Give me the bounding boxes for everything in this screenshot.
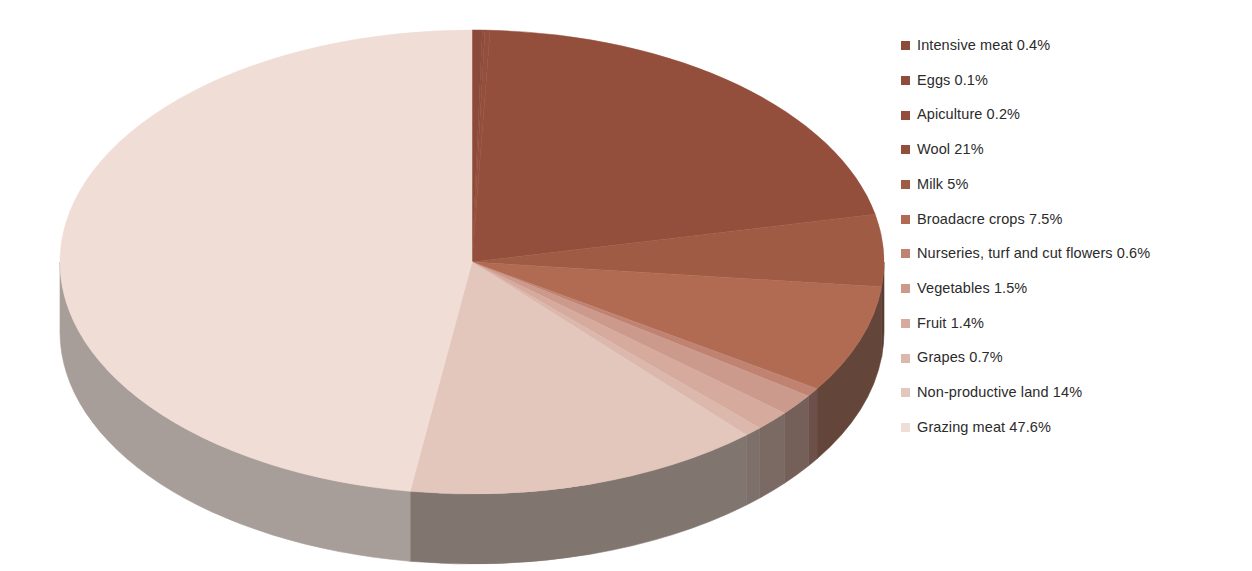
- legend-swatch-icon: [901, 41, 910, 50]
- legend-item[interactable]: Apiculture 0.2%: [901, 97, 1252, 132]
- legend-item[interactable]: Fruit 1.4%: [901, 306, 1252, 341]
- legend-item[interactable]: Vegetables 1.5%: [901, 271, 1252, 306]
- legend-swatch-icon: [901, 180, 910, 189]
- pie-slice-side-6: [808, 389, 817, 466]
- legend-item-label: Grazing meat 47.6%: [917, 420, 1051, 435]
- legend-item[interactable]: Wool 21%: [901, 132, 1252, 167]
- legend-swatch-icon: [901, 145, 910, 154]
- pie-top-face-group: [60, 30, 884, 494]
- legend-item-label: Vegetables 1.5%: [917, 281, 1027, 296]
- legend-swatch-icon: [901, 215, 910, 224]
- legend-item-label: Wool 21%: [917, 142, 984, 157]
- legend-item[interactable]: Intensive meat 0.4%: [901, 28, 1252, 63]
- legend-swatch-icon: [901, 284, 910, 293]
- legend-item[interactable]: Grapes 0.7%: [901, 340, 1252, 375]
- legend-item-label: Fruit 1.4%: [917, 316, 984, 331]
- pie-chart-plot-area: [0, 0, 900, 571]
- legend-item[interactable]: Eggs 0.1%: [901, 63, 1252, 98]
- legend-item-label: Broadacre crops 7.5%: [917, 212, 1062, 227]
- legend-swatch-icon: [901, 423, 910, 432]
- legend-item-label: Non-productive land 14%: [917, 385, 1082, 400]
- legend-item-label: Nurseries, turf and cut flowers 0.6%: [917, 246, 1150, 261]
- legend-item[interactable]: Milk 5%: [901, 167, 1252, 202]
- pie-chart-svg: [0, 0, 900, 571]
- legend-swatch-icon: [901, 249, 910, 258]
- pie-chart-figure: Intensive meat 0.4%Eggs 0.1%Apiculture 0…: [0, 0, 1252, 571]
- legend-item-label: Milk 5%: [917, 177, 968, 192]
- chart-legend: Intensive meat 0.4%Eggs 0.1%Apiculture 0…: [901, 28, 1252, 444]
- legend-item[interactable]: Nurseries, turf and cut flowers 0.6%: [901, 236, 1252, 271]
- legend-item[interactable]: Non-productive land 14%: [901, 375, 1252, 410]
- legend-swatch-icon: [901, 319, 910, 328]
- legend-item[interactable]: Broadacre crops 7.5%: [901, 201, 1252, 236]
- legend-item[interactable]: Grazing meat 47.6%: [901, 410, 1252, 445]
- legend-swatch-icon: [901, 354, 910, 363]
- legend-item-label: Intensive meat 0.4%: [917, 38, 1050, 53]
- legend-swatch-icon: [901, 76, 910, 85]
- legend-item-label: Eggs 0.1%: [917, 73, 988, 88]
- legend-swatch-icon: [901, 111, 910, 120]
- legend-item-label: Grapes 0.7%: [917, 350, 1003, 365]
- pie-slice-side-9: [746, 428, 759, 505]
- legend-item-label: Apiculture 0.2%: [917, 107, 1020, 122]
- legend-swatch-icon: [901, 388, 910, 397]
